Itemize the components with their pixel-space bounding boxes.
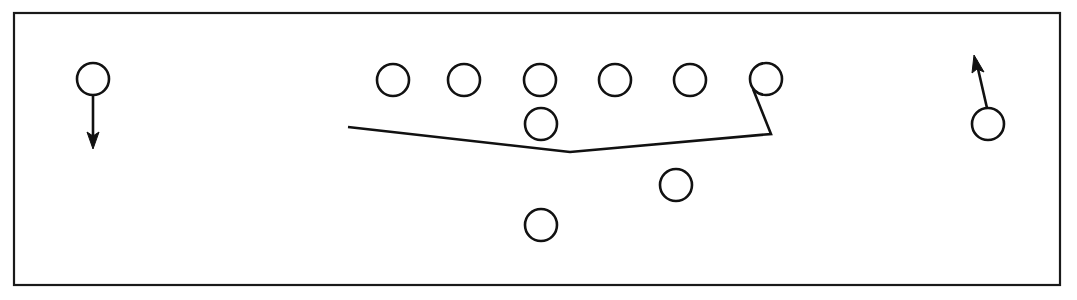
player-left-wide-receiver[interactable] bbox=[77, 63, 109, 95]
blocking-scheme-line bbox=[348, 89, 771, 152]
player-line-player-2[interactable] bbox=[448, 64, 480, 96]
player-right-wide-receiver[interactable] bbox=[972, 108, 1004, 140]
player-back-deep[interactable] bbox=[525, 209, 557, 241]
play-diagram-canvas bbox=[0, 0, 1077, 300]
player-line-player-1[interactable] bbox=[377, 64, 409, 96]
player-line-player-5[interactable] bbox=[674, 64, 706, 96]
play-diagram-page bbox=[0, 0, 1077, 300]
player-line-player-6[interactable] bbox=[750, 63, 782, 95]
player-quarterback[interactable] bbox=[525, 108, 557, 140]
player-line-player-4[interactable] bbox=[599, 64, 631, 96]
player-line-player-3[interactable] bbox=[524, 64, 556, 96]
player-back-right[interactable] bbox=[660, 169, 692, 201]
